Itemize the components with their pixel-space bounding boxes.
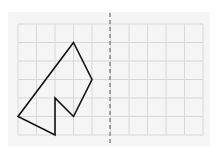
- reflection-diagram: [0, 0, 220, 158]
